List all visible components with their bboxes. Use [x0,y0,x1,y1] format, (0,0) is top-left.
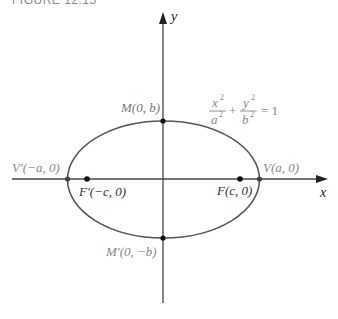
eq-y-denominator: b [242,112,249,127]
label-f: F(c, 0) [216,183,252,198]
y-axis-arrow-icon [159,12,167,24]
eq-a-exp: 2 [219,110,223,119]
point-m [160,118,165,123]
eq-plus: + [229,103,236,118]
label-f-prime: F′(−c, 0) [78,184,126,199]
label-m: M(0, b) [120,100,160,115]
eq-x-exp: 2 [220,93,224,102]
eq-x-denominator: a [211,112,218,127]
eq-equals: = 1 [261,103,278,118]
x-axis [12,175,328,183]
ellipse-diagram: y x M(0, b) M′(0, −b) V(a, 0) V′(−a, 0) … [0,0,338,319]
eq-x-numerator: x [211,95,218,110]
point-f [237,176,243,182]
point-f-prime [84,176,90,182]
x-axis-arrow-icon [316,175,328,183]
point-m-prime [160,235,165,240]
ellipse-equation: x 2 a 2 + y 2 b 2 = 1 [209,93,278,127]
eq-y-numerator: y [241,95,249,110]
x-axis-label: x [319,185,327,200]
eq-y-exp: 2 [251,93,255,102]
y-axis-label: y [169,9,178,24]
point-v [257,176,262,181]
eq-b-exp: 2 [250,110,254,119]
label-v-prime: V′(−a, 0) [12,160,60,175]
y-axis [159,12,167,303]
point-v-prime [65,176,70,181]
label-v: V(a, 0) [263,160,299,175]
label-m-prime: M′(0, −b) [105,244,157,259]
